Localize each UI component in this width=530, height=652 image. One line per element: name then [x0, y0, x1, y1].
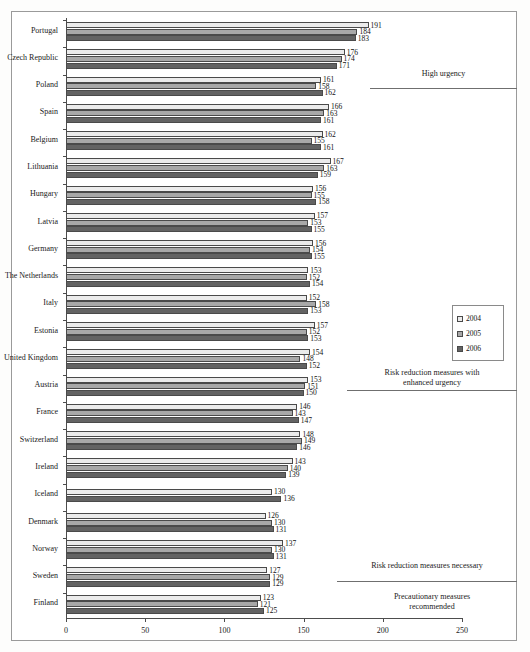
bar-austria-2005 [66, 383, 305, 389]
bar-value-label: 155 [314, 226, 325, 233]
category-label: Estonia [0, 326, 58, 335]
category-label: Poland [0, 80, 58, 89]
bar-hungary-2004 [66, 186, 313, 192]
bar-estonia-2004 [66, 322, 315, 328]
y-tick-mark [63, 47, 66, 48]
legend-label-2004: 2004 [466, 314, 481, 323]
bar-value-label: 191 [371, 22, 382, 29]
legend-label-2006: 2006 [466, 344, 481, 353]
y-tick-mark [63, 238, 66, 239]
bar-estonia-2005 [66, 329, 307, 335]
bar-switzerland-2005 [66, 438, 302, 444]
zone-label-line1: High urgency [370, 69, 517, 79]
y-tick-mark [63, 511, 66, 512]
y-tick-mark [63, 211, 66, 212]
y-tick-mark [63, 375, 66, 376]
bar-lithuania-2004 [66, 158, 331, 164]
legend-item-2006: 2006 [457, 341, 499, 356]
category-label: United Kingdom [0, 353, 58, 362]
category-label: The Netherlands [0, 271, 58, 280]
zone-label-line2: recommended [347, 602, 517, 612]
bar-value-label: 150 [306, 389, 317, 396]
bar-hungary-2006 [66, 199, 316, 205]
category-label: Belgium [0, 135, 58, 144]
category-label: Czech Republic [0, 53, 58, 62]
bar-denmark-2004 [66, 513, 266, 519]
bar-value-label: 147 [301, 417, 312, 424]
bar-value-label: 131 [276, 553, 287, 560]
bar-switzerland-2006 [66, 444, 297, 450]
category-label: Portugal [0, 26, 58, 35]
bar-germany-2004 [66, 240, 313, 246]
zone-label-line2: enhanced urgency [347, 378, 517, 388]
bar-value-label: 146 [299, 444, 310, 451]
bar-denmark-2005 [66, 520, 272, 526]
bar-iceland-2004 [66, 489, 272, 495]
bar-spain-2005 [66, 110, 324, 116]
category-label: Norway [0, 544, 58, 553]
bar-sweden-2006 [66, 581, 270, 587]
y-tick-mark [63, 402, 66, 403]
category-label: Lithuania [0, 162, 58, 171]
category-label: Germany [0, 244, 58, 253]
bar-switzerland-2004 [66, 431, 300, 437]
zone-label-enhanced-urgency: Risk reduction measures with enhanced ur… [347, 368, 517, 388]
bar-sweden-2004 [66, 567, 267, 573]
x-tick-label: 150 [298, 626, 310, 635]
bar-italy-2005 [66, 301, 316, 307]
bar-value-label: 159 [320, 171, 331, 178]
bar-belgium-2005 [66, 138, 312, 144]
x-axis-line [66, 618, 463, 619]
y-tick-mark [63, 75, 66, 76]
y-tick-mark [63, 593, 66, 594]
bar-norway-2005 [66, 547, 272, 553]
zone-label-line1: Risk reduction measures with [347, 368, 517, 378]
y-tick-mark [63, 293, 66, 294]
bar-belgium-2006 [66, 144, 321, 150]
chart-page: 050100150200250 191184183176174171161158… [0, 0, 530, 652]
bar-value-label: 131 [276, 526, 287, 533]
y-tick-mark [63, 347, 66, 348]
bar-norway-2006 [66, 553, 274, 559]
bar-finland-2006 [66, 608, 264, 614]
bar-value-label: 154 [312, 280, 323, 287]
zone-label-high-urgency: High urgency [370, 69, 517, 79]
bar-portugal-2004 [66, 22, 369, 28]
category-label: Ireland [0, 462, 58, 471]
y-tick-mark [63, 565, 66, 566]
y-tick-mark [63, 265, 66, 266]
bar-latvia-2006 [66, 226, 312, 232]
bar-norway-2004 [66, 540, 283, 546]
bar-united-kingdom-2005 [66, 356, 300, 362]
bar-lithuania-2006 [66, 172, 318, 178]
y-tick-mark [63, 538, 66, 539]
bar-the-netherlands-2004 [66, 267, 308, 273]
chart-legend: 2004 2005 2006 [452, 305, 504, 361]
zone-label-precautionary: Precautionary measures recommended [347, 592, 517, 612]
legend-swatch-2004 [457, 316, 463, 322]
bar-latvia-2005 [66, 220, 308, 226]
bar-estonia-2006 [66, 335, 308, 341]
bar-italy-2004 [66, 295, 307, 301]
zone-divider-2 [347, 390, 517, 391]
bar-ireland-2006 [66, 472, 286, 478]
x-tick-mark [462, 618, 463, 622]
bar-value-label: 137 [285, 540, 296, 547]
bar-value-label: 139 [288, 471, 299, 478]
bar-poland-2006 [66, 90, 323, 96]
y-tick-mark [63, 184, 66, 185]
bar-portugal-2005 [66, 29, 357, 35]
x-tick-label: 250 [456, 626, 468, 635]
category-label: Iceland [0, 489, 58, 498]
bar-value-label: 161 [323, 117, 334, 124]
bar-finland-2004 [66, 595, 261, 601]
plot-area: 1911841831761741711611581621661631611621… [66, 18, 462, 618]
bar-finland-2005 [66, 601, 258, 607]
y-tick-mark [63, 156, 66, 157]
bar-value-label: 155 [314, 253, 325, 260]
bar-iceland-2006 [66, 496, 281, 502]
bar-value-label: 161 [323, 144, 334, 151]
bar-belgium-2004 [66, 131, 323, 137]
bar-hungary-2005 [66, 192, 312, 198]
bar-value-label: 183 [358, 35, 369, 42]
